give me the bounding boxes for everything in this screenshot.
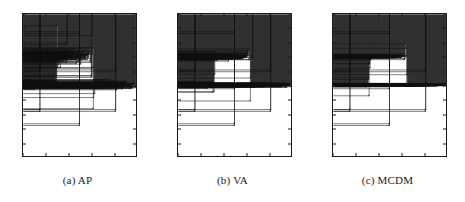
panel-ap-data-marks: [23, 14, 136, 156]
panel-mcdm: 0100200300400500600700800900100002004006…: [310, 0, 465, 202]
panel-va-caption: (b) VA: [155, 174, 310, 186]
figure-container: 0100200300400500600700800900100002004006…: [0, 0, 465, 202]
panel-mcdm-caption: (c) MCDM: [310, 174, 465, 186]
panel-va-plot-area: 0100200300400500600700800900100002004006…: [177, 13, 292, 157]
panel-ap-caption: (a) AP: [0, 174, 155, 186]
panel-mcdm-data-marks: [333, 14, 446, 156]
panel-va-data-marks: [178, 14, 291, 156]
panel-va: 0100200300400500600700800900100002004006…: [155, 0, 310, 202]
panel-ap: 0100200300400500600700800900100002004006…: [0, 0, 155, 202]
panel-ap-plot-area: 0100200300400500600700800900100002004006…: [22, 13, 137, 157]
panel-mcdm-plot-area: 0100200300400500600700800900100002004006…: [332, 13, 447, 157]
